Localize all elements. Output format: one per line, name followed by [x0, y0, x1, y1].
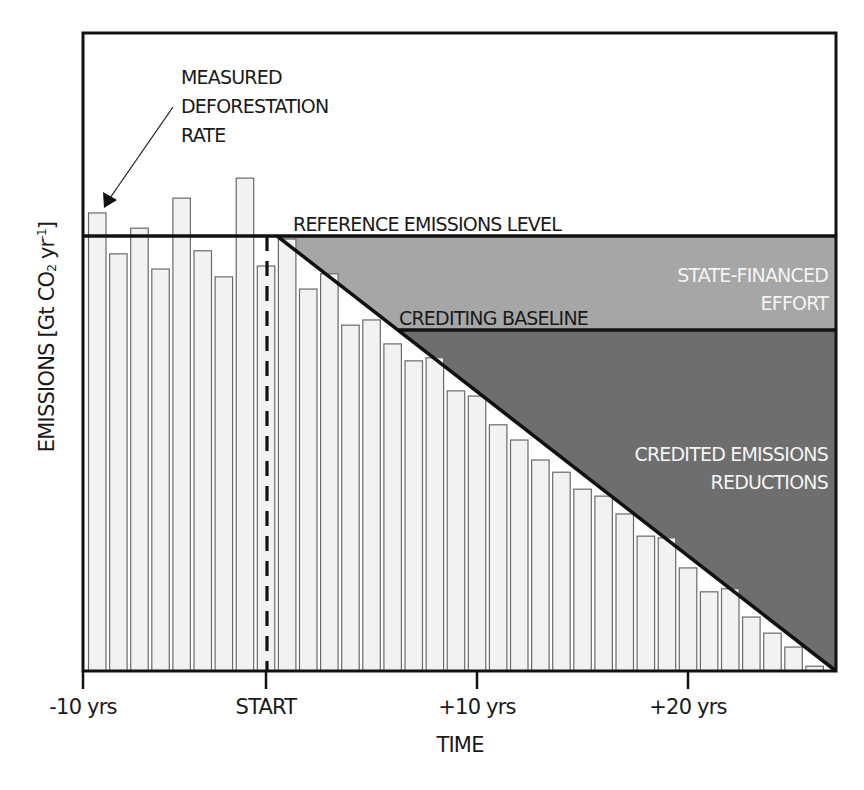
y-title-sup: -1 — [35, 229, 49, 239]
bar — [152, 269, 170, 671]
bar — [363, 320, 381, 671]
bar — [173, 198, 191, 671]
bar — [426, 358, 444, 671]
bar — [300, 289, 318, 671]
state-financed-label: STATE-FINANCED EFFORT — [677, 261, 828, 317]
bar — [110, 254, 128, 671]
bar — [532, 460, 550, 671]
bar — [722, 589, 740, 671]
bar — [278, 239, 296, 671]
measured-rate-line-2: DEFORESTATION — [181, 92, 328, 121]
bar — [595, 496, 613, 671]
bar — [743, 617, 761, 671]
bar — [489, 425, 507, 671]
bar — [616, 514, 634, 671]
measured-rate-label: MEASURED DEFORESTATION RATE — [181, 63, 328, 150]
reference-level-label: REFERENCE EMISSIONS LEVEL — [293, 215, 561, 234]
credited-reductions-line-2: REDUCTIONS — [634, 468, 828, 496]
y-title-sub: 2 — [45, 265, 59, 272]
x-tick-plus-10: +10 yrs — [438, 697, 515, 718]
bar — [236, 178, 254, 671]
x-tick-plus-20: +20 yrs — [649, 697, 726, 718]
measured-rate-line-3: RATE — [181, 121, 328, 150]
bar — [384, 344, 402, 671]
x-tick-minus-10: -10 yrs — [49, 697, 116, 718]
bar — [468, 396, 486, 671]
state-financed-line-1: STATE-FINANCED — [677, 261, 828, 289]
y-title-end: ] — [35, 222, 59, 229]
x-tick-start: START — [236, 697, 297, 718]
y-axis-title: EMISSIONS [Gt CO2 yr-1] — [35, 222, 59, 452]
y-title-mid: yr — [35, 240, 59, 265]
arrow-icon — [103, 107, 173, 208]
chart-canvas — [0, 0, 864, 790]
bar — [700, 592, 718, 671]
crediting-baseline-label: CREDITING BASELINE — [399, 309, 588, 328]
bar — [321, 274, 339, 671]
y-title-main: EMISSIONS [Gt CO — [35, 272, 59, 452]
bar — [511, 440, 529, 671]
credited-reductions-label: CREDITED EMISSIONS REDUCTIONS — [634, 440, 828, 496]
measured-rate-line-1: MEASURED — [181, 63, 328, 92]
bar — [194, 251, 212, 671]
bar — [764, 633, 782, 671]
bar — [342, 325, 360, 671]
state-financed-line-2: EFFORT — [677, 289, 828, 317]
bar — [89, 213, 107, 671]
bar — [553, 472, 571, 671]
bar — [131, 228, 149, 671]
bar — [215, 277, 233, 671]
bar — [574, 489, 592, 671]
bar — [785, 647, 803, 671]
bar — [658, 538, 676, 671]
bar — [447, 391, 465, 671]
credited-reductions-line-1: CREDITED EMISSIONS — [634, 440, 828, 468]
bar — [405, 361, 423, 671]
x-axis-ticks — [83, 671, 688, 689]
bar — [679, 568, 697, 671]
bar — [637, 536, 655, 671]
x-axis-title: TIME — [436, 735, 483, 756]
